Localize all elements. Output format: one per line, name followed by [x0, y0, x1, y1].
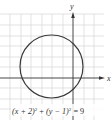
y-axis-arrow-icon — [71, 12, 75, 18]
y-axis — [71, 12, 75, 120]
y-axis-label: y — [69, 2, 74, 11]
coordinate-graph: y x (x + 2)2 + (y − 1)2 = 9 — [0, 0, 112, 120]
x-axis-label: x — [106, 74, 111, 83]
x-axis-arrow-icon — [99, 76, 105, 80]
circle-curve — [20, 35, 83, 98]
x-axis — [0, 76, 105, 80]
equation-label: (x + 2)2 + (y − 1)2 = 9 — [12, 107, 84, 116]
